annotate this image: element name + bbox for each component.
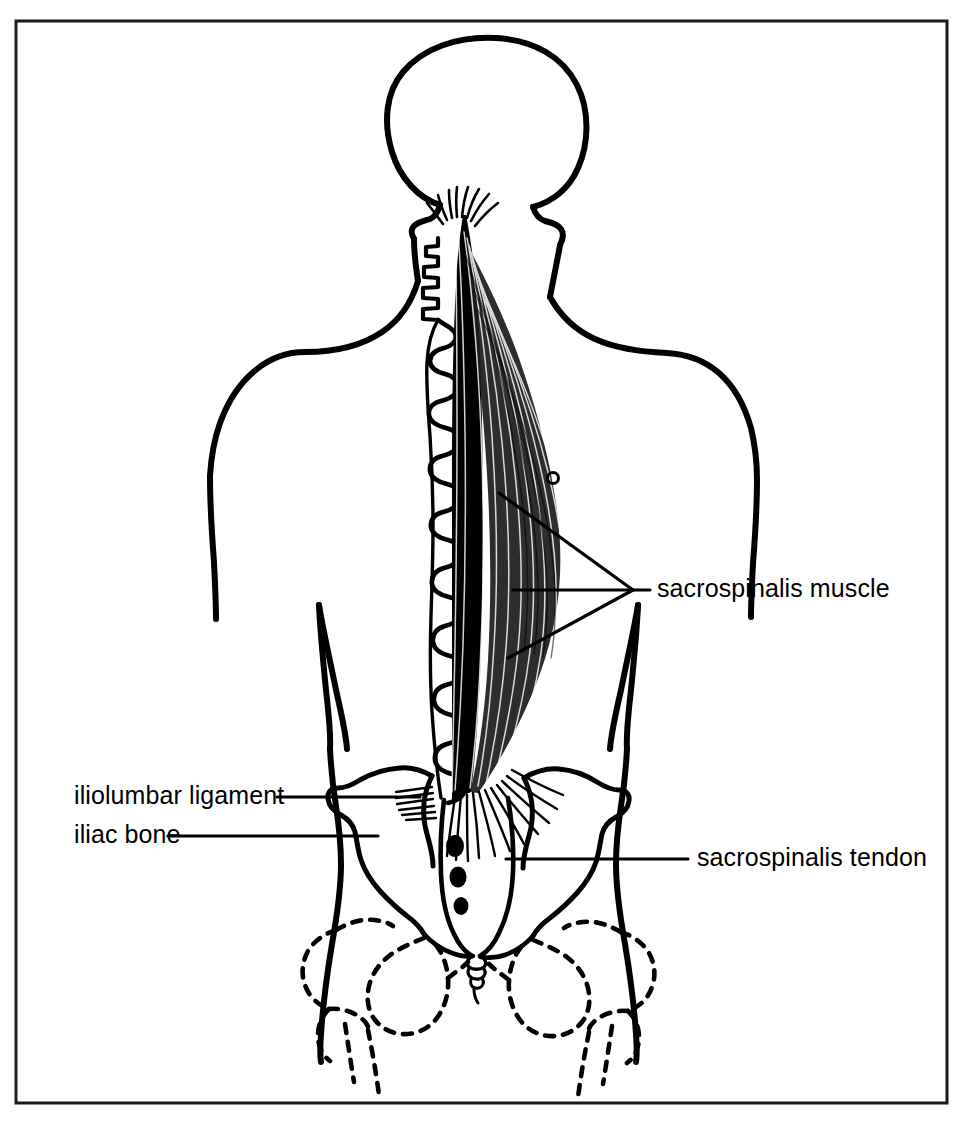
left-torso-side	[210, 476, 216, 619]
sacral-foramen-1	[446, 835, 464, 857]
iliolumbar-ligament	[396, 787, 436, 820]
cervical-spine	[423, 238, 438, 320]
sacrum-right-margin	[480, 798, 513, 956]
left-obturator-ring	[368, 938, 449, 1034]
left-iliac-inner	[424, 776, 433, 866]
right-pubic-ramus	[489, 964, 509, 980]
anatomical-figure: sacrospinalis muscle iliolumbar ligament…	[0, 0, 961, 1122]
neck-right-column	[550, 245, 560, 297]
left-shoulder-outline	[210, 281, 418, 476]
right-shoulder-outline	[550, 297, 757, 479]
dashed-bones	[303, 920, 655, 1097]
sacral-foramina	[446, 835, 469, 915]
label-iliac-bone: iliac bone	[74, 820, 181, 848]
label-sacrospinalis-tendon: sacrospinalis tendon	[697, 843, 927, 871]
pelvis-bones	[328, 768, 629, 1003]
left-iliac-crest-dashed	[336, 920, 393, 930]
left-femur-shaft-medial	[368, 1030, 379, 1095]
anatomy-illustration: sacrospinalis muscle iliolumbar ligament…	[0, 0, 961, 1122]
right-femur-shaft-lateral	[603, 1026, 612, 1084]
sacral-foramen-3	[454, 897, 469, 915]
label-sacrospinalis-muscle: sacrospinalis muscle	[657, 574, 890, 602]
left-greater-trochanter	[329, 1009, 368, 1030]
skull-outline	[387, 38, 586, 207]
vertebral-left-margin	[427, 320, 441, 798]
right-obturator-ring	[509, 940, 590, 1036]
coccyx-tip	[474, 989, 478, 1003]
neck-left-outline	[412, 205, 440, 239]
neck-left-column	[414, 239, 418, 281]
label-iliolumbar-ligament: iliolumbar ligament	[74, 781, 284, 809]
left-femur-shaft-lateral	[345, 1024, 354, 1082]
right-femur-shaft-medial	[578, 1032, 589, 1097]
sacral-foramen-2	[450, 867, 467, 888]
neck-right-outline	[533, 207, 563, 245]
right-greater-trochanter	[589, 1011, 628, 1032]
left-pubic-ramus	[448, 962, 468, 978]
right-iliac-crest-dashed	[564, 922, 621, 932]
